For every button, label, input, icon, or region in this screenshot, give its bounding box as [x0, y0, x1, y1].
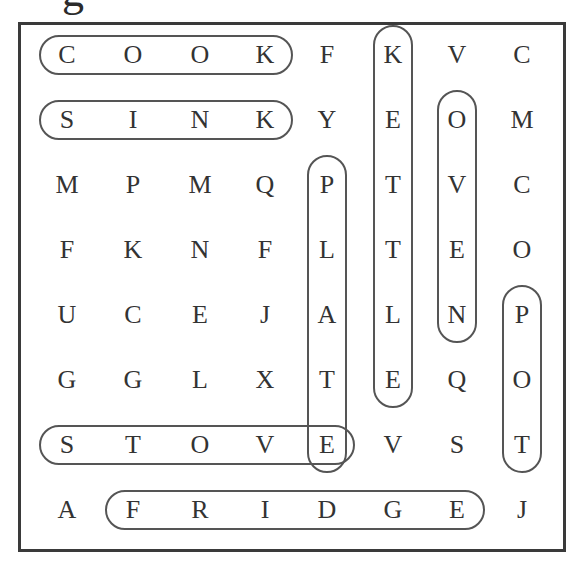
found-word-ring-sink [39, 100, 293, 140]
heading-fragment: g [62, 0, 84, 14]
grid-cell[interactable]: J [245, 295, 285, 335]
grid-cell[interactable]: F [307, 35, 347, 75]
grid-cell[interactable]: O [502, 230, 542, 270]
grid-cell[interactable]: X [245, 360, 285, 400]
grid-cell[interactable]: C [502, 35, 542, 75]
grid-cell[interactable]: J [502, 490, 542, 530]
grid-cell[interactable]: A [47, 490, 87, 530]
grid-cell[interactable]: E [180, 295, 220, 335]
grid-cell[interactable]: Q [437, 360, 477, 400]
found-word-ring-pot [502, 285, 542, 473]
grid-cell[interactable]: C [502, 165, 542, 205]
grid-cell[interactable]: G [113, 360, 153, 400]
grid-cell[interactable]: M [502, 100, 542, 140]
found-word-ring-cook [39, 35, 293, 75]
grid-cell[interactable]: N [180, 230, 220, 270]
grid-cell[interactable]: L [180, 360, 220, 400]
grid-cell[interactable]: C [113, 295, 153, 335]
found-word-ring-plate [307, 155, 347, 473]
grid-cell[interactable]: K [113, 230, 153, 270]
grid-cell[interactable]: G [47, 360, 87, 400]
grid-cell[interactable]: Y [307, 100, 347, 140]
grid-cell[interactable]: M [47, 165, 87, 205]
found-word-ring-oven [437, 90, 477, 343]
grid-cell[interactable]: U [47, 295, 87, 335]
grid-cell[interactable]: M [180, 165, 220, 205]
grid-cell[interactable]: F [47, 230, 87, 270]
grid-cell[interactable]: V [373, 425, 413, 465]
grid-cell[interactable]: V [437, 35, 477, 75]
found-word-ring-kettle [373, 25, 413, 408]
found-word-ring-fridge [105, 490, 485, 530]
grid-cell[interactable]: S [437, 425, 477, 465]
grid-cell[interactable]: P [113, 165, 153, 205]
grid-cell[interactable]: F [245, 230, 285, 270]
grid-cell[interactable]: Q [245, 165, 285, 205]
